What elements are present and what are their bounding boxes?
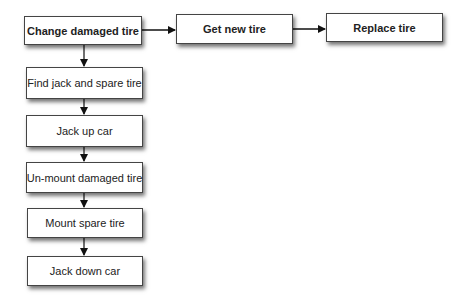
node-label: Replace tire <box>353 22 415 34</box>
node-get-new-tire: Get new tire <box>176 14 293 44</box>
node-label: Get new tire <box>203 23 266 35</box>
node-label: Jack up car <box>56 125 112 137</box>
node-change-damaged-tire: Change damaged tire <box>24 16 142 45</box>
node-mount-spare-tire: Mount spare tire <box>27 208 143 238</box>
node-label: Un-mount damaged tire <box>27 172 143 184</box>
node-jack-up-car: Jack up car <box>26 115 143 147</box>
node-label: Jack down car <box>50 265 120 277</box>
node-jack-down-car: Jack down car <box>27 256 143 286</box>
node-label: Find jack and spare tire <box>27 77 141 89</box>
node-label: Change damaged tire <box>27 25 139 37</box>
node-find-jack-and-spare-tire: Find jack and spare tire <box>26 67 143 99</box>
node-replace-tire: Replace tire <box>326 13 443 42</box>
node-label: Mount spare tire <box>45 217 124 229</box>
node-un-mount-damaged-tire: Un-mount damaged tire <box>26 162 143 193</box>
